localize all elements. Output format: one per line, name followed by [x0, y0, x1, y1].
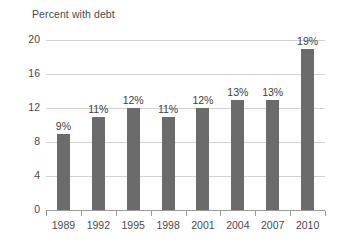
gridline [46, 142, 325, 143]
bar-chart: Percent with debt 048121620 198919921995… [0, 0, 343, 242]
bar [92, 117, 105, 211]
bar [266, 100, 279, 211]
bar [57, 134, 70, 211]
bar [162, 117, 175, 211]
y-axis-tick-label: 20 [14, 33, 40, 45]
bar [301, 49, 314, 211]
bar [196, 108, 209, 210]
bar [231, 100, 244, 211]
plot-area [46, 40, 325, 210]
gridline [46, 176, 325, 177]
x-axis-tick-mark [81, 211, 82, 216]
chart-title: Percent with debt [32, 8, 115, 20]
bar [127, 108, 140, 210]
x-axis-tick-label: 2010 [288, 219, 328, 231]
x-axis-tick-mark [255, 211, 256, 216]
x-axis-tick-mark [116, 211, 117, 216]
y-axis-tick-label: 16 [14, 67, 40, 79]
x-axis-tick-mark [46, 211, 47, 216]
bar-value-label: 13% [253, 86, 293, 98]
x-axis-tick-mark [186, 211, 187, 216]
gridline [46, 74, 325, 75]
bar-value-label: 9% [43, 120, 83, 132]
x-axis-tick-mark [290, 211, 291, 216]
y-axis-tick-label: 12 [14, 101, 40, 113]
y-axis-tick-label: 8 [14, 135, 40, 147]
y-axis-tick-label: 4 [14, 169, 40, 181]
x-axis-tick-mark [220, 211, 221, 216]
bar-value-label: 19% [288, 35, 328, 47]
x-axis-tick-mark [151, 211, 152, 216]
x-axis-tick-mark [325, 211, 326, 216]
gridline [46, 40, 325, 41]
y-axis-tick-label: 0 [14, 203, 40, 215]
